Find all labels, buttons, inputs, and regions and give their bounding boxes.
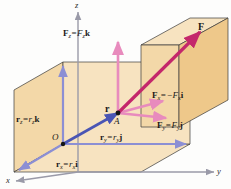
force-z-rhs-subscript: z [83,32,85,39]
force-z-lhs-subscript: z [69,32,71,39]
force-x-rhs-subscript: x [178,94,181,101]
z-axis-label: z [75,1,78,10]
position-x-unit-vector: i [75,159,78,169]
force-y-unit-vector: j [180,120,183,130]
force-x-lhs-subscript: x [158,94,161,101]
force-y-lhs-symbol: F [157,120,163,130]
position-y-rhs-subscript: y [116,136,119,143]
position-x-rhs-subscript: x [72,163,75,170]
position-y-unit-vector: j [119,132,122,142]
y-axis-label: y [217,167,221,176]
application-point-label: A [114,117,120,126]
origin-point-marker [61,142,65,146]
origin-label: O [52,133,59,142]
force-z-rhs-scalar: F [77,28,83,38]
force-z-equation-label: Fz=Fzk [63,29,90,38]
position-resultant-label: r [105,104,109,114]
force-z-unit-vector: k [85,28,90,38]
application-point-marker [116,111,121,116]
upper-box [141,18,228,127]
position-y-equation-label: ry=ryj [100,133,122,142]
position-x-equation-label: rx=rxi [56,160,78,169]
position-x-lhs-subscript: x [60,163,63,170]
vector-diagram-figure: x y z O A F r Fz=Fzk Fx=−Fxi Fy=Fyj rz=r… [0,0,231,189]
force-x-lhs-symbol: F [152,90,158,100]
position-z-equation-label: rz=rzk [16,115,40,124]
force-resultant-label: F [198,22,204,32]
position-z-unit-vector: k [35,114,40,124]
force-y-rhs-subscript: y [177,124,180,131]
x-axis-line [16,172,78,181]
position-y-lhs-subscript: y [104,136,107,143]
force-x-equation-label: Fx=−Fxi [152,91,183,100]
force-y-equation-label: Fy=Fyj [157,121,183,130]
force-y-lhs-subscript: y [163,124,166,131]
force-x-unit-vector: i [181,90,184,100]
diagram-canvas [0,0,231,189]
x-axis-label: x [6,176,10,185]
position-z-rhs-subscript: z [32,118,34,125]
force-z-lhs-symbol: F [63,28,69,38]
